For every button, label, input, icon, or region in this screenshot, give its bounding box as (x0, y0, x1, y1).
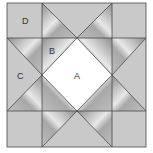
label-b: B (49, 46, 55, 56)
label-a: A (74, 71, 80, 81)
label-d: D (22, 16, 29, 26)
label-c: C (17, 71, 24, 81)
quilt-block-diagram: D B C A (0, 0, 153, 153)
